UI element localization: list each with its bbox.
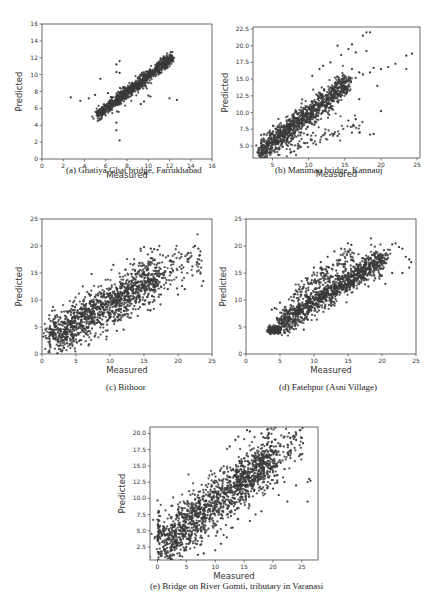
x-axis-title: Measured: [213, 571, 255, 581]
y-tick-label: 7.5: [136, 511, 146, 518]
scatter-plot-e: 05101520252.55.07.510.012.515.017.520.0M…: [0, 0, 439, 612]
y-tick-label: 12.5: [133, 478, 147, 485]
y-tick-label: 15.0: [133, 462, 147, 469]
x-tick-label: 5: [184, 563, 188, 570]
x-tick-label: 0: [156, 563, 160, 570]
y-tick-label: 5.0: [136, 527, 146, 534]
y-tick-label: 10.0: [133, 494, 147, 501]
y-tick-label: 20.0: [133, 429, 147, 436]
x-tick-label: 20: [269, 563, 277, 570]
panel-caption-e: (e) Bridge on River Gomti, tributary in …: [150, 581, 323, 591]
x-tick-label: 15: [240, 563, 248, 570]
y-tick-label: 17.5: [133, 446, 147, 453]
y-axis-title: Predicted: [117, 474, 127, 514]
x-tick-label: 25: [298, 563, 306, 570]
data-points: [149, 427, 312, 576]
x-tick-label: 10: [211, 563, 219, 570]
y-tick-label: 2.5: [136, 543, 146, 550]
